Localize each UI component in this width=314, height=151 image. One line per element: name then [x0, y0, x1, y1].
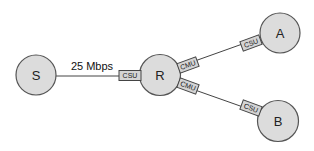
link-label-bandwidth: 25 Mbps	[71, 60, 114, 72]
node-a-label: A	[276, 26, 285, 41]
node-b: B	[258, 101, 299, 142]
device-csu-near-r: CSU	[119, 71, 141, 81]
node-r-label: R	[155, 68, 164, 83]
device-cmu-upper: CMU	[177, 57, 199, 73]
node-r: R	[140, 55, 181, 96]
device-cmu-lower: CMU	[177, 78, 199, 94]
node-b-label: B	[274, 114, 283, 129]
node-s-label: S	[32, 68, 41, 83]
node-a: A	[260, 13, 300, 53]
device-csu-near-a: CSU	[240, 35, 262, 51]
svg-text:CSU: CSU	[123, 72, 138, 79]
device-csu-near-b: CSU	[240, 100, 262, 116]
node-s: S	[16, 55, 56, 95]
network-diagram: 25 Mbps S R A B CSU CMU CMU CSU CSU	[0, 0, 314, 151]
